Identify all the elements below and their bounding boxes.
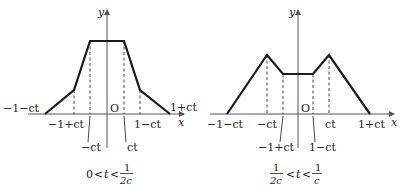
tick-far-left: −1−ct (3, 102, 40, 115)
y-axis-label: y (288, 6, 296, 19)
leader-minus-1-plus-ct (280, 116, 283, 142)
leader-minus-ct (88, 116, 90, 142)
leader-ct (124, 116, 126, 142)
caption-right-rden: c (314, 175, 320, 186)
tick-peak-right: ct (325, 118, 336, 131)
caption-right: 1 2c < t < 1 c (269, 162, 322, 186)
caption-right-lnum: 1 (273, 162, 279, 173)
tick-inner-right: 1−ct (134, 118, 161, 131)
caption-right-lt1: < (286, 168, 295, 181)
caption-left-lhs: 0 (86, 168, 93, 181)
origin-label: O (110, 102, 119, 115)
caption-left-num: 1 (124, 162, 130, 173)
x-axis-label: x (391, 116, 398, 129)
caption-right-lt2: < (302, 168, 311, 181)
y-axis-label: y (97, 6, 105, 19)
figure-right: y x O −1−ct −ct −1+ct 1−ct ct 1+ct 1 2c … (207, 6, 398, 186)
figure-left: y x O −1−ct −1+ct −ct ct 1−ct 1+ct 0 < t… (3, 6, 197, 186)
tick-far-left: −1−ct (207, 118, 244, 131)
tick-center-left: −ct (81, 141, 101, 154)
diagram-canvas: y x O −1−ct −1+ct −ct ct 1−ct 1+ct 0 < t… (0, 0, 408, 191)
caption-left-lt1: < (94, 168, 103, 181)
caption-left-den: 2c (119, 175, 132, 186)
origin-label: O (301, 102, 310, 115)
tick-dip-right: 1−ct (309, 141, 336, 154)
caption-left-var: t (104, 168, 109, 181)
caption-right-rnum: 1 (315, 162, 321, 173)
tick-peak-left: −ct (257, 118, 277, 131)
tick-dip-left: −1+ct (258, 141, 295, 154)
tick-far-right: 1+ct (358, 118, 385, 131)
tick-center-right: ct (127, 141, 138, 154)
tick-far-right: 1+ct (170, 101, 197, 114)
caption-left: 0 < t < 1 2c (86, 162, 133, 186)
caption-right-lden: 2c (269, 175, 282, 186)
x-axis-label: x (178, 116, 185, 129)
tick-inner-left: −1+ct (48, 118, 85, 131)
caption-left-lt2: < (110, 168, 119, 181)
leader-1-minus-ct (313, 116, 315, 142)
caption-right-var: t (296, 168, 301, 181)
